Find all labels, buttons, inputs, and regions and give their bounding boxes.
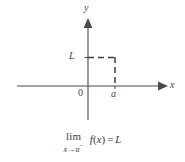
origin-label: 0 <box>78 88 83 98</box>
limit-value: L <box>115 133 121 145</box>
x-value-label-a: a <box>111 89 116 99</box>
limit-figure: y x L a 0 lim x→a− f(x)=L <box>0 0 185 162</box>
x-axis-arrowhead <box>158 82 168 91</box>
limit-subscript: x→a− <box>64 143 84 154</box>
limit-operator: lim <box>64 131 84 142</box>
y-axis-label: y <box>84 3 88 13</box>
limit-subscript-side: − <box>80 142 84 150</box>
x-axis-label: x <box>170 80 174 90</box>
limit-expression: f(x)=L <box>90 133 122 145</box>
y-value-label-L: L <box>69 51 75 61</box>
equals-sign: = <box>107 133 113 145</box>
figure-caption: lim x→a− f(x)=L <box>0 131 185 154</box>
function-close-paren: ) <box>101 133 105 145</box>
coordinate-axes-graphic <box>0 0 185 130</box>
limit-operator-block: lim x→a− <box>64 131 84 154</box>
y-axis-arrowhead <box>84 18 93 28</box>
